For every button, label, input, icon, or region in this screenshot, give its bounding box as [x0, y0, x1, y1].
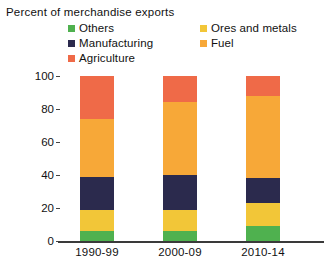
bar-segment-ores-and-metals[interactable] [80, 210, 114, 231]
bar-segment-manufacturing[interactable] [80, 177, 114, 210]
y-tick-label: 80 [8, 103, 54, 115]
y-tick-mark [56, 208, 60, 209]
y-tick-label: 60 [8, 136, 54, 148]
y-tick-label: 0 [8, 235, 54, 247]
y-tick-mark [56, 109, 60, 110]
bar-segment-others[interactable] [80, 231, 114, 241]
x-tick-label: 2000-09 [135, 246, 225, 258]
x-axis-baseline [58, 241, 324, 243]
bar-segment-manufacturing[interactable] [163, 175, 197, 210]
bar-segment-others[interactable] [246, 226, 280, 241]
bar-segment-ores-and-metals[interactable] [163, 210, 197, 231]
bar-segment-agriculture[interactable] [163, 76, 197, 102]
x-tick-label: 2010-14 [218, 246, 308, 258]
bar-segment-fuel[interactable] [246, 96, 280, 179]
bar-segment-agriculture[interactable] [80, 76, 114, 119]
y-tick-label: 20 [8, 202, 54, 214]
y-tick-mark [56, 142, 60, 143]
bar-segment-others[interactable] [163, 231, 197, 241]
y-axis: 020406080100 [8, 0, 54, 266]
y-tick-mark [56, 76, 60, 77]
bar-segment-fuel[interactable] [163, 102, 197, 175]
bar-segment-manufacturing[interactable] [246, 178, 280, 203]
bar-segment-agriculture[interactable] [246, 76, 280, 96]
x-tick-label: 1990-99 [52, 246, 142, 258]
stacked-bar-chart: Percent of merchandise exports Others Or… [0, 0, 328, 266]
y-tick-label: 40 [8, 169, 54, 181]
y-tick-label: 100 [8, 70, 54, 82]
bar-segment-fuel[interactable] [80, 119, 114, 177]
bar-1990-99[interactable] [80, 76, 114, 241]
bar-2000-09[interactable] [163, 76, 197, 241]
y-tick-mark [56, 175, 60, 176]
plot-area: 020406080100 1990-992000-092010-14 [0, 0, 328, 266]
bar-segment-ores-and-metals[interactable] [246, 203, 280, 226]
bar-2010-14[interactable] [246, 76, 280, 241]
